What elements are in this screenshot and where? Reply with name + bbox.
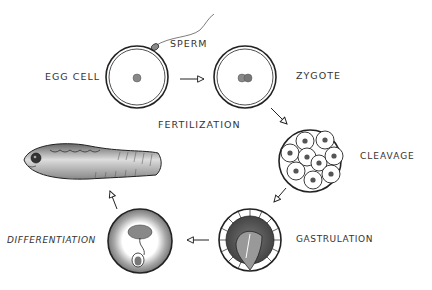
differentiation-icon (108, 209, 172, 273)
arrow-zygote-to-cleavage (271, 108, 287, 124)
embryo-development-diagram: SPERM EGG CELL ZYGOTE FERTILIZATION CLEA… (0, 0, 432, 290)
zygote-icon (214, 46, 276, 108)
fertilization-label: FERTILIZATION (158, 119, 241, 130)
cleavage-morula-icon (279, 130, 343, 192)
cleavage-label: CLEAVAGE (360, 151, 415, 161)
gastrulation-icon (219, 209, 281, 271)
arrow-differentiation-to-larva (110, 191, 117, 209)
zygote-label: ZYGOTE (296, 70, 341, 81)
egg-cell-icon (106, 46, 168, 108)
larva-fish-icon (24, 144, 161, 179)
gastrulation-label: GASTRULATION (296, 234, 373, 244)
sperm-label: SPERM (170, 38, 208, 49)
arrow-cleavage-to-gastrulation (274, 188, 286, 202)
differentiation-label: DIFFERENTIATION (7, 235, 96, 245)
egg-cell-label: EGG CELL (45, 71, 100, 82)
diagram-canvas (0, 0, 432, 290)
